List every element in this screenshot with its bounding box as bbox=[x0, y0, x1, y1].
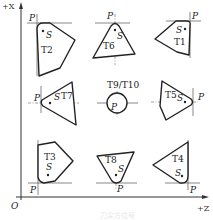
center-label: S bbox=[176, 25, 182, 35]
origin-label: O bbox=[11, 201, 19, 211]
center-label: S bbox=[175, 168, 181, 178]
tool-T1: P S T1 bbox=[155, 11, 201, 58]
x-axis-label: +X bbox=[2, 2, 15, 11]
z-axis-arrow-icon bbox=[202, 195, 209, 199]
tool-label: T8 bbox=[105, 155, 117, 165]
tip-label: P bbox=[28, 13, 36, 23]
x-axis-arrow-icon bbox=[19, 2, 23, 9]
tool-label: T1 bbox=[174, 37, 186, 47]
tip-label: P bbox=[191, 11, 199, 21]
tool-T7: P S T7 bbox=[28, 82, 79, 125]
tool-label: T4 bbox=[172, 154, 184, 164]
center-label: S bbox=[46, 30, 52, 40]
tool-orientation-diagram: +X +Z O P S T2 P S T6 P S T1 P bbox=[0, 0, 213, 220]
center-label: S bbox=[117, 31, 123, 41]
z-axis-label: +Z bbox=[197, 204, 210, 213]
tool-label: T6 bbox=[103, 41, 115, 51]
figure-caption: 刀尖方位号 bbox=[100, 211, 135, 220]
tool-T4: P S T4 bbox=[153, 140, 200, 195]
tool-label: T3 bbox=[44, 152, 56, 162]
tool-label: T7 bbox=[61, 91, 73, 101]
tool-label: T2 bbox=[41, 45, 53, 55]
tool-T6: P S T6 bbox=[93, 11, 135, 65]
center-label: S bbox=[118, 164, 124, 174]
tip-label: P bbox=[116, 184, 124, 194]
center-label: S bbox=[46, 162, 52, 172]
tip-label: P bbox=[110, 102, 118, 112]
tool-label: T9/T10 bbox=[107, 80, 139, 90]
center-label: S bbox=[177, 93, 183, 103]
tip-label: P bbox=[29, 185, 37, 195]
tool-T8: P S T8 bbox=[96, 152, 137, 194]
tip-label: P bbox=[33, 93, 41, 103]
tool-T3: P S T3 bbox=[28, 140, 73, 195]
center-label: S bbox=[54, 92, 60, 102]
tip-label: P bbox=[106, 11, 114, 21]
tool-T9-T10: T9/T10 P bbox=[97, 80, 139, 117]
tip-label: P bbox=[189, 185, 197, 195]
tool-T2: P S T2 bbox=[27, 13, 75, 76]
tool-label: T5 bbox=[165, 90, 177, 100]
tool-T5: P S T5 bbox=[151, 81, 205, 120]
tip-label: P bbox=[197, 92, 205, 102]
